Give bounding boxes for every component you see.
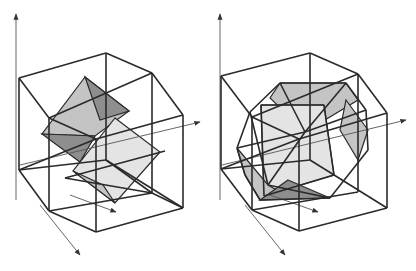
polyhedron-edge [330, 150, 368, 198]
wireframe-edge [310, 160, 387, 208]
axis-arrow-icon [245, 205, 285, 255]
wireframe-edge [19, 78, 49, 118]
wireframe-edge [19, 53, 106, 78]
wireframe-edge [152, 73, 183, 115]
wireframe-edge [299, 208, 387, 231]
wireframe-edge [49, 193, 152, 211]
wireframe-edge [310, 53, 358, 74]
wireframe-edge [252, 210, 299, 231]
polyhedron-edge [366, 110, 368, 150]
wireframe-edge [221, 53, 310, 76]
wireframe-edge [96, 208, 183, 232]
tesseract-diagram [0, 0, 416, 271]
polyhedron-edge [237, 112, 250, 148]
wireframe-edge [221, 76, 252, 117]
left-panel [16, 14, 200, 255]
wireframe-edge [19, 170, 49, 211]
axis-arrow-icon [40, 205, 80, 255]
wireframe-edge [152, 193, 183, 208]
wireframe-edge [358, 74, 387, 113]
right-panel [220, 14, 406, 255]
wireframe-edge [106, 53, 152, 73]
wireframe-edge [49, 211, 96, 232]
